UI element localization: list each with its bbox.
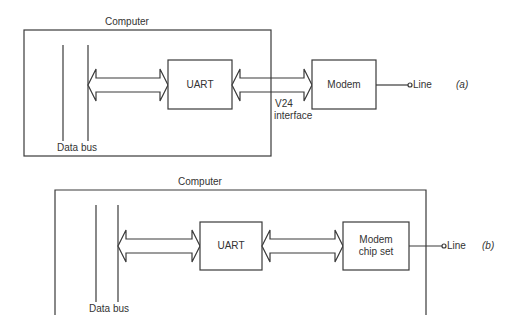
data-bus-label-a: Data bus xyxy=(57,142,97,154)
modem-chipset-label-b: Modem chip set xyxy=(343,222,409,270)
bus-uart-arrow-a xyxy=(88,69,168,101)
computer-label-b: Computer xyxy=(178,176,222,188)
line-label-a: Line xyxy=(413,79,432,91)
v24-label: V24 xyxy=(275,98,293,110)
bus-uart-arrow-b xyxy=(118,230,200,262)
uart-label-a: UART xyxy=(168,60,232,109)
uart-label-b: UART xyxy=(200,222,262,270)
figure-tag-b: (b) xyxy=(482,240,494,252)
line-label-b: Line xyxy=(447,240,466,252)
modem-label-b-line1: Modem xyxy=(359,234,392,246)
uart-modem-arrow-b xyxy=(262,230,343,262)
line-terminal-b xyxy=(442,244,446,248)
computer-box-a xyxy=(24,30,271,156)
modem-label-b-line2: chip set xyxy=(359,246,393,258)
uart-modem-arrow-a xyxy=(232,69,312,101)
computer-label-a: Computer xyxy=(105,16,149,28)
data-bus-label-b: Data bus xyxy=(89,303,129,315)
line-terminal-a xyxy=(408,83,412,87)
interface-label: interface xyxy=(274,110,312,122)
figure-tag-a: (a) xyxy=(456,79,468,91)
modem-label-a: Modem xyxy=(312,60,376,109)
